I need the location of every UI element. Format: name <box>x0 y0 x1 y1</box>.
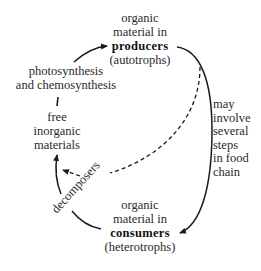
node-producers: organic material in producers (autotroph… <box>100 11 180 67</box>
inorganic-line-1: free <box>20 110 94 124</box>
food-chain-line-3: several <box>213 125 259 139</box>
food-chain-line-1: may <box>213 98 259 112</box>
consumers-line-1: organic <box>98 198 182 212</box>
node-consumers: organic material in consumers (heterotro… <box>98 198 182 254</box>
inorganic-line-2: inorganic <box>20 124 94 138</box>
label-photosynthesis: photosynthesis and chemosynthesis <box>10 64 122 92</box>
label-food-chain: may involve several steps in food chain <box>213 98 259 179</box>
inorganic-line-3: materials <box>20 138 94 152</box>
arrow-producers-to-consumers <box>177 47 212 233</box>
food-chain-line-2: involve <box>213 112 259 126</box>
consumers-line-4: (heterotrophs) <box>98 240 182 254</box>
node-inorganic: free inorganic materials <box>20 110 94 152</box>
producers-line-2: material in <box>100 25 180 39</box>
food-chain-line-4: steps <box>213 139 259 153</box>
consumers-line-3: consumers <box>98 226 182 240</box>
photosynthesis-line-1: photosynthesis <box>10 64 122 78</box>
food-chain-line-5: in food <box>213 152 259 166</box>
producers-line-1: organic <box>100 11 180 25</box>
food-chain-line-6: chain <box>213 166 259 180</box>
consumers-line-2: material in <box>98 212 182 226</box>
stem-inorganic-to-photosynthesis <box>57 97 58 106</box>
photosynthesis-line-2: and chemosynthesis <box>10 78 122 92</box>
dashed-producers-to-decomposers <box>110 67 200 173</box>
producers-line-3: producers <box>100 39 180 53</box>
line-consumers-to-decomposers <box>72 211 101 229</box>
arrow-decomposers-to-inorganic <box>56 155 61 194</box>
